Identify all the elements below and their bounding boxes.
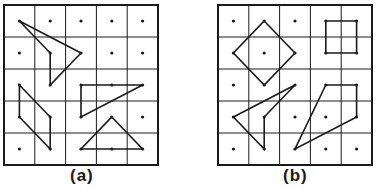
vertex-dot bbox=[141, 147, 144, 150]
vertex-dot bbox=[141, 83, 144, 86]
vertex-dot bbox=[49, 51, 52, 54]
panel-b-grid bbox=[218, 5, 372, 165]
vertex-dot bbox=[293, 147, 296, 150]
vertex-dot bbox=[79, 83, 82, 86]
vertex-dot bbox=[232, 115, 235, 118]
grid-dot bbox=[232, 147, 235, 150]
vertex-dot bbox=[49, 115, 52, 118]
vertex-dot bbox=[324, 51, 327, 54]
grid-dot bbox=[141, 19, 144, 22]
vertex-dot bbox=[49, 83, 52, 86]
panel-b-caption: (b) bbox=[283, 166, 308, 186]
figure-canvas bbox=[0, 0, 376, 190]
panel-a-caption: (a) bbox=[70, 166, 94, 186]
vertex-dot bbox=[18, 115, 21, 118]
grid-dot bbox=[293, 19, 296, 22]
grid-dot bbox=[18, 147, 21, 150]
grid-dot bbox=[49, 19, 52, 22]
vertex-dot bbox=[79, 51, 82, 54]
grid-dot bbox=[293, 115, 296, 118]
vertex-dot bbox=[263, 147, 266, 150]
vertex-dot bbox=[293, 83, 296, 86]
grid-dot bbox=[232, 83, 235, 86]
vertex-dot bbox=[355, 83, 358, 86]
vertex-dot bbox=[324, 19, 327, 22]
vertex-dot bbox=[263, 19, 266, 22]
vertex-dot bbox=[263, 83, 266, 86]
grid-dot bbox=[18, 51, 21, 54]
grid-dot bbox=[141, 115, 144, 118]
vertex-dot bbox=[293, 51, 296, 54]
grid-dot bbox=[232, 19, 235, 22]
vertex-dot bbox=[263, 115, 266, 118]
vertex-dot bbox=[355, 19, 358, 22]
grid-dot bbox=[79, 19, 82, 22]
grid-dot bbox=[324, 115, 327, 118]
grid-dot bbox=[110, 51, 113, 54]
grid-dot bbox=[110, 19, 113, 22]
vertex-dot bbox=[355, 115, 358, 118]
panel-a-grid bbox=[4, 5, 158, 165]
vertex-dot bbox=[324, 83, 327, 86]
vertex-dot bbox=[355, 51, 358, 54]
vertex-dot bbox=[110, 115, 113, 118]
grid-dot bbox=[263, 51, 266, 54]
vertex-dot bbox=[110, 83, 113, 86]
grid-dot bbox=[324, 147, 327, 150]
vertex-dot bbox=[79, 147, 82, 150]
vertex-dot bbox=[18, 19, 21, 22]
vertex-dot bbox=[79, 115, 82, 118]
grid-dot bbox=[355, 147, 358, 150]
vertex-dot bbox=[232, 51, 235, 54]
vertex-dot bbox=[18, 83, 21, 86]
vertex-dot bbox=[49, 147, 52, 150]
vertex-dot bbox=[110, 147, 113, 150]
grid-dot bbox=[141, 51, 144, 54]
